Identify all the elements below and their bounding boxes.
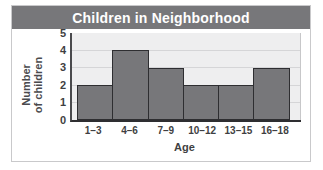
x-tick-label: 7–9 [148,125,184,137]
x-axis-tick-labels: 1–3 4–6 7–9 10–12 13–15 16–18 [75,125,293,137]
y-axis-title: Number of children [12,43,52,127]
y-tick-label: 5 [50,28,66,38]
y-axis-title-line-1: Number [20,64,32,106]
plot-area [70,33,301,122]
bar [253,68,290,120]
bar-series [77,33,290,120]
x-tick-label: 16–18 [257,125,293,137]
bar [183,85,220,120]
chart-figure: Children in Neighborhood Number of child… [0,0,323,170]
x-tick-label: 10–12 [184,125,220,137]
y-axis-tick-labels: 5 4 3 2 1 0 [50,29,66,124]
y-tick-label: 4 [50,45,66,55]
bar [112,50,149,120]
y-tick-label: 0 [50,115,66,125]
x-axis-title: Age [70,141,299,153]
bar [77,85,114,120]
chart-body: Number of children 5 4 3 2 1 0 [12,29,310,161]
y-tick-label: 3 [50,62,66,72]
chart-title-bar: Children in Neighborhood [12,6,310,29]
x-tick-label: 13–15 [220,125,256,137]
y-axis-title-line-2: of children [32,57,44,113]
x-tick-label: 1–3 [75,125,111,137]
x-tick-label: 4–6 [111,125,147,137]
bar [148,68,185,120]
y-tick-label: 1 [50,97,66,107]
y-tick-label: 2 [50,80,66,90]
plot-right-edge [300,33,301,120]
chart-title: Children in Neighborhood [72,11,249,25]
bar [218,85,255,120]
